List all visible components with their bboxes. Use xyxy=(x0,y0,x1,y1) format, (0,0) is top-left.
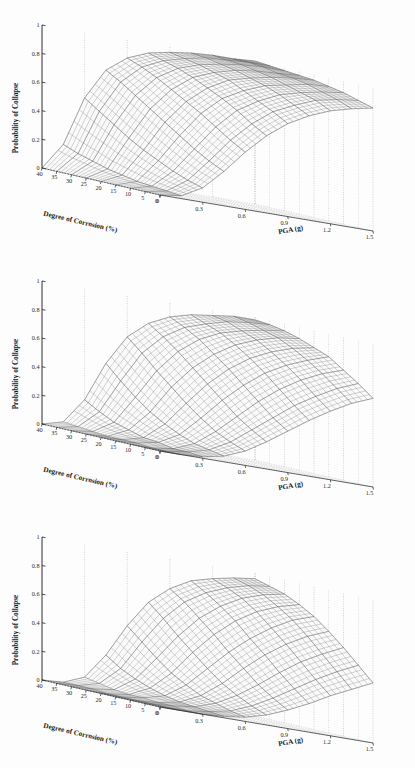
x-tick-label: 30 xyxy=(66,433,72,440)
surface-chart-svg: 00.20.40.60.81403530252015105000.30.60.9… xyxy=(0,0,415,256)
z-axis-title: Probability of Collapse xyxy=(12,339,20,410)
x-tick-label: 5 xyxy=(141,706,144,713)
y-tick-label: 1.5 xyxy=(366,745,374,752)
y-tick-label: 0.3 xyxy=(195,461,203,468)
y-tick-label: 0.6 xyxy=(238,468,246,475)
y-tick-label: 1.5 xyxy=(366,489,374,496)
x-tick-label: 25 xyxy=(81,436,87,443)
z-tick-label: 0.8 xyxy=(32,50,40,57)
x-tick-label: 20 xyxy=(95,184,101,191)
x-tick-label: 10 xyxy=(125,702,131,709)
figure-page: 00.20.40.60.81403530252015105000.30.60.9… xyxy=(0,0,415,768)
y-tick-label: 0.9 xyxy=(280,475,288,482)
x-tick-label: 10 xyxy=(125,190,131,197)
y-tick-label: 0.9 xyxy=(280,731,288,738)
y-tick-label: 0 xyxy=(155,709,158,716)
y-tick-label: 0 xyxy=(155,197,158,204)
z-axis-title: Probability of Collapse xyxy=(12,83,20,154)
z-tick-label: 0.6 xyxy=(32,590,40,597)
surface-plot-panel-1: 00.20.40.60.81403530252015105000.30.60.9… xyxy=(0,0,415,256)
x-tick-label: 30 xyxy=(66,177,72,184)
x-tick-label: 20 xyxy=(95,440,101,447)
x-tick-label: 35 xyxy=(51,173,57,180)
y-tick-label: 0.3 xyxy=(195,717,203,724)
z-tick-label: 1 xyxy=(36,277,39,284)
y-tick-label: 1.5 xyxy=(366,233,374,240)
y-tick-label: 0.9 xyxy=(280,219,288,226)
z-tick-label: 0.2 xyxy=(32,136,40,143)
z-tick-label: 0.2 xyxy=(32,648,40,655)
z-tick-label: 1 xyxy=(36,21,39,28)
surface-chart-svg: 00.20.40.60.81403530252015105000.30.60.9… xyxy=(0,512,415,768)
x-tick-label: 5 xyxy=(141,194,144,201)
x-tick-label: 40 xyxy=(36,170,42,177)
x-tick-label: 15 xyxy=(110,699,116,706)
y-tick-label: 0.6 xyxy=(238,724,246,731)
z-tick-label: 0.2 xyxy=(32,392,40,399)
x-tick-label: 35 xyxy=(51,685,57,692)
z-tick-label: 0.6 xyxy=(32,334,40,341)
z-tick-label: 0.8 xyxy=(32,562,40,569)
z-tick-label: 0.4 xyxy=(32,363,40,370)
x-tick-label: 30 xyxy=(66,689,72,696)
x-tick-label: 40 xyxy=(36,426,42,433)
z-tick-label: 0.4 xyxy=(32,619,40,626)
y-tick-label: 1.2 xyxy=(323,482,331,489)
y-tick-label: 0.3 xyxy=(195,205,203,212)
z-tick-label: 1 xyxy=(36,533,39,540)
x-tick-label: 35 xyxy=(51,429,57,436)
surface-plot-panel-3: 00.20.40.60.81403530252015105000.30.60.9… xyxy=(0,512,415,768)
x-tick-label: 40 xyxy=(36,682,42,689)
x-tick-label: 15 xyxy=(110,443,116,450)
z-axis-title: Probability of Collapse xyxy=(12,595,20,666)
x-tick-label: 5 xyxy=(141,450,144,457)
x-tick-label: 20 xyxy=(95,696,101,703)
z-tick-label: 0.4 xyxy=(32,107,40,114)
x-tick-label: 25 xyxy=(81,180,87,187)
x-tick-label: 25 xyxy=(81,692,87,699)
x-tick-label: 15 xyxy=(110,187,116,194)
z-tick-label: 0.6 xyxy=(32,78,40,85)
y-tick-label: 0.6 xyxy=(238,212,246,219)
z-tick-label: 0.8 xyxy=(32,306,40,313)
y-tick-label: 1.2 xyxy=(323,738,331,745)
x-tick-label: 10 xyxy=(125,446,131,453)
surface-plot-panel-2: 00.20.40.60.81403530252015105000.30.60.9… xyxy=(0,256,415,512)
surface-chart-svg: 00.20.40.60.81403530252015105000.30.60.9… xyxy=(0,256,415,512)
y-tick-label: 0 xyxy=(155,453,158,460)
y-tick-label: 1.2 xyxy=(323,226,331,233)
